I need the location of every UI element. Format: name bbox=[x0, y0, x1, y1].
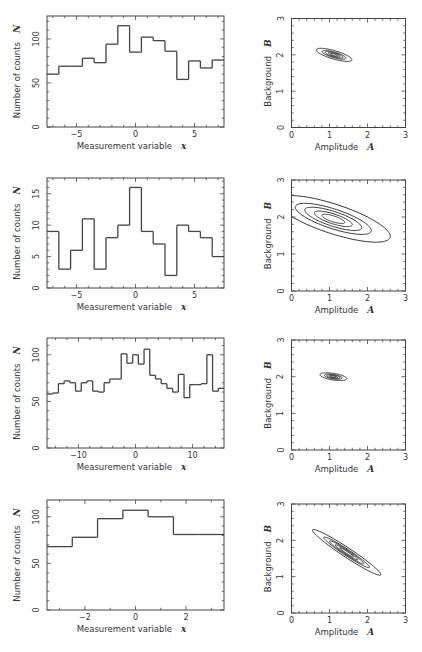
axis-ticks bbox=[292, 504, 406, 613]
y-axis-symbol: N bbox=[12, 508, 22, 518]
y-axis-title: Number of counts bbox=[12, 363, 22, 440]
plot-frame bbox=[47, 16, 224, 127]
y-tick-label: 2 bbox=[277, 538, 286, 543]
plot-frame bbox=[292, 19, 406, 128]
plot-area bbox=[320, 373, 347, 381]
axis-ticks bbox=[47, 500, 224, 610]
y-tick-label: 1 bbox=[277, 574, 286, 579]
y-axis-title: Background bbox=[263, 378, 273, 429]
y-axis-title: Background bbox=[263, 541, 273, 592]
x-tick-label: 1 bbox=[327, 616, 332, 625]
x-axis-label: AmplitudeA bbox=[315, 305, 375, 315]
y-tick-label: 100 bbox=[32, 31, 41, 46]
x-tick-label: 3 bbox=[403, 294, 408, 303]
plot-area bbox=[47, 349, 224, 397]
x-axis-title: Amplitude bbox=[315, 464, 359, 474]
x-axis-label: Measurement variablex bbox=[77, 462, 187, 472]
y-tick-label: 0 bbox=[277, 447, 286, 452]
y-tick-label: 50 bbox=[32, 396, 41, 406]
x-axis-title: Measurement variable bbox=[77, 624, 172, 634]
x-tick-label: −5 bbox=[71, 130, 83, 139]
x-tick-label: 0 bbox=[289, 616, 294, 625]
y-axis-title: Number of counts bbox=[12, 525, 22, 602]
panel-row-1-left: −505050100Measurement variablexNumber of… bbox=[12, 16, 224, 151]
panel-row-4-right: 01230123AmplitudeABackgroundB bbox=[263, 501, 409, 637]
y-axis-symbol: B bbox=[263, 201, 273, 210]
x-axis-label: Measurement variablex bbox=[77, 141, 187, 151]
x-tick-label: 0 bbox=[133, 613, 138, 622]
likelihood-contour bbox=[316, 48, 352, 61]
x-axis-title: Measurement variable bbox=[77, 302, 172, 312]
y-tick-label: 0 bbox=[32, 607, 41, 612]
plot-frame bbox=[292, 504, 406, 613]
y-axis-label: Number of countsN bbox=[12, 24, 22, 118]
y-tick-label: 10 bbox=[32, 220, 41, 230]
plot-area bbox=[312, 529, 380, 575]
x-axis-symbol: A bbox=[366, 627, 374, 637]
plot-frame bbox=[47, 500, 224, 610]
y-tick-label: 0 bbox=[277, 288, 286, 293]
x-tick-label: −2 bbox=[79, 613, 91, 622]
likelihood-contour bbox=[322, 214, 345, 223]
x-tick-label: 2 bbox=[365, 616, 370, 625]
likelihood-contour bbox=[330, 541, 364, 564]
y-tick-label: 3 bbox=[277, 177, 286, 182]
x-axis-symbol: x bbox=[180, 302, 187, 312]
x-tick-label: 0 bbox=[133, 451, 138, 460]
y-tick-label: 3 bbox=[277, 337, 286, 342]
y-axis-label: BackgroundB bbox=[263, 361, 273, 429]
x-tick-label: 1 bbox=[327, 294, 332, 303]
x-axis-label: Measurement variablex bbox=[77, 624, 187, 634]
x-tick-label: 2 bbox=[365, 131, 370, 140]
y-axis-symbol: N bbox=[12, 346, 22, 356]
x-tick-label: 0 bbox=[289, 294, 294, 303]
x-tick-label: 0 bbox=[133, 291, 138, 300]
x-axis-title: Measurement variable bbox=[77, 462, 172, 472]
panel-row-3-left: −10010050100Measurement variablexNumber … bbox=[12, 338, 224, 472]
x-axis-label: Measurement variablex bbox=[77, 302, 187, 312]
axis-ticks bbox=[47, 178, 224, 288]
x-tick-label: 5 bbox=[192, 291, 197, 300]
panel-row-3-right: 01230123AmplitudeABackgroundB bbox=[263, 337, 409, 474]
x-axis-title: Amplitude bbox=[315, 142, 359, 152]
axis-ticks bbox=[292, 19, 406, 128]
plot-area bbox=[47, 510, 224, 546]
y-axis-symbol: B bbox=[263, 39, 273, 48]
x-axis-label: AmplitudeA bbox=[315, 142, 375, 152]
y-tick-label: 2 bbox=[277, 374, 286, 379]
plot-frame bbox=[292, 180, 406, 291]
y-axis-label: BackgroundB bbox=[263, 524, 273, 592]
x-tick-label: 5 bbox=[192, 130, 197, 139]
y-tick-label: 1 bbox=[277, 411, 286, 416]
y-axis-label: Number of countsN bbox=[12, 186, 22, 280]
y-axis-symbol: B bbox=[263, 524, 273, 533]
x-tick-label: 10 bbox=[188, 451, 198, 460]
plot-area bbox=[47, 187, 224, 275]
plot-frame bbox=[47, 178, 224, 288]
panel-row-2-right: 01230123AmplitudeABackgroundB bbox=[263, 177, 409, 315]
y-axis-title: Number of counts bbox=[12, 203, 22, 280]
y-tick-label: 0 bbox=[277, 125, 286, 130]
x-tick-label: 1 bbox=[327, 131, 332, 140]
panel-row-2-left: −505051015Measurement variablexNumber of… bbox=[12, 178, 224, 312]
panel-row-1-right: 01230123AmplitudeABackgroundB bbox=[263, 16, 409, 152]
y-tick-label: 0 bbox=[32, 285, 41, 290]
x-axis-label: AmplitudeA bbox=[315, 464, 375, 474]
x-axis-symbol: A bbox=[366, 464, 374, 474]
y-axis-label: Number of countsN bbox=[12, 346, 22, 440]
x-tick-label: 0 bbox=[289, 453, 294, 462]
plot-area bbox=[316, 48, 352, 61]
y-tick-label: 3 bbox=[277, 16, 286, 21]
y-tick-label: 15 bbox=[32, 189, 41, 199]
axis-ticks bbox=[292, 340, 406, 450]
x-tick-label: 0 bbox=[289, 131, 294, 140]
x-tick-label: 1 bbox=[327, 453, 332, 462]
x-axis-label: AmplitudeA bbox=[315, 627, 375, 637]
y-tick-label: 5 bbox=[32, 254, 41, 259]
x-tick-label: −5 bbox=[71, 291, 83, 300]
y-tick-label: 50 bbox=[32, 558, 41, 568]
y-tick-label: 1 bbox=[277, 251, 286, 256]
y-axis-label: Number of countsN bbox=[12, 508, 22, 602]
y-tick-label: 1 bbox=[277, 89, 286, 94]
y-axis-label: BackgroundB bbox=[263, 201, 273, 269]
